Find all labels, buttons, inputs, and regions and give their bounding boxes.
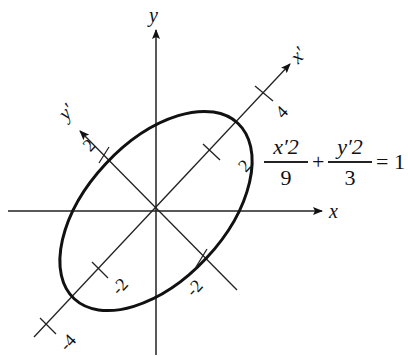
y-axis-label: y	[147, 4, 158, 27]
x-axis-label: x	[328, 200, 338, 222]
ellipse-equation: x′2 9 + y′2 3 = 1	[262, 134, 408, 200]
x-prime-axis-label: x′	[284, 42, 310, 68]
tick-label-x-prime-neg2: -2	[107, 274, 132, 299]
numerator-y-prime: y′2	[328, 134, 372, 160]
plus-sign: +	[312, 149, 324, 175]
tick-label-x-prime-neg4: -4	[55, 330, 80, 355]
rotated-ellipse-diagram: y x x′ y′ 2 4 -2 -4 2 -2 x′2 9 + y′2 3 =…	[0, 0, 408, 357]
y-prime-axis-label: y′	[52, 99, 80, 126]
y-prime-ticks	[99, 147, 207, 267]
fraction-bar	[264, 161, 308, 163]
fraction-bar	[328, 161, 372, 163]
denominator-3: 3	[328, 165, 372, 191]
tick-label-x-prime-4: 4	[271, 102, 292, 122]
tick-label-y-prime-2: 2	[79, 135, 100, 155]
fraction-y-prime: y′2 3	[328, 134, 372, 191]
fraction-x-prime: x′2 9	[264, 134, 308, 191]
numerator-x-prime: x′2	[264, 134, 308, 160]
equals-one: = 1	[376, 149, 405, 175]
denominator-9: 9	[264, 165, 308, 191]
